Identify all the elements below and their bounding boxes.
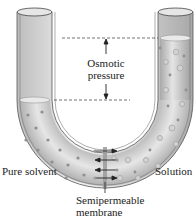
solution-label: Solution (155, 165, 193, 177)
pure-solvent-surface (19, 97, 50, 103)
osmotic-label-line2: pressure (88, 69, 125, 81)
solution-surface (160, 35, 191, 41)
left-tube-opening (17, 8, 52, 16)
pure-solvent-label: Pure solvent (2, 165, 57, 177)
membrane-label-line2: membrane (76, 206, 123, 218)
right-tube-opening (158, 8, 193, 16)
arrow-up-icon (104, 39, 108, 44)
osmosis-diagram: Osmotic pressure Pure solvent Solution S… (0, 0, 196, 219)
membrane-label-line1: Semipermeable (76, 194, 145, 206)
arrow-down-icon (104, 94, 108, 99)
osmotic-label-line1: Osmotic (87, 57, 124, 69)
